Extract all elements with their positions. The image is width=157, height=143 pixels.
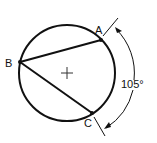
point-c: [90, 111, 94, 115]
arc-measure-label: 105°: [121, 78, 144, 90]
label-a: A: [95, 24, 103, 36]
extension-line-c: [94, 117, 105, 136]
extension-line-a: [103, 18, 118, 36]
label-c: C: [84, 117, 92, 129]
dimension-arc-upper: [116, 29, 134, 80]
label-b: B: [5, 57, 12, 69]
center-mark: [61, 67, 73, 79]
chord-ba: [20, 40, 101, 62]
point-b: [18, 60, 22, 64]
inscribed-angle-diagram: A B C 105°: [0, 0, 157, 143]
arrowhead-top: [115, 27, 122, 33]
point-a: [99, 38, 103, 42]
arrowhead-bottom: [104, 122, 111, 129]
